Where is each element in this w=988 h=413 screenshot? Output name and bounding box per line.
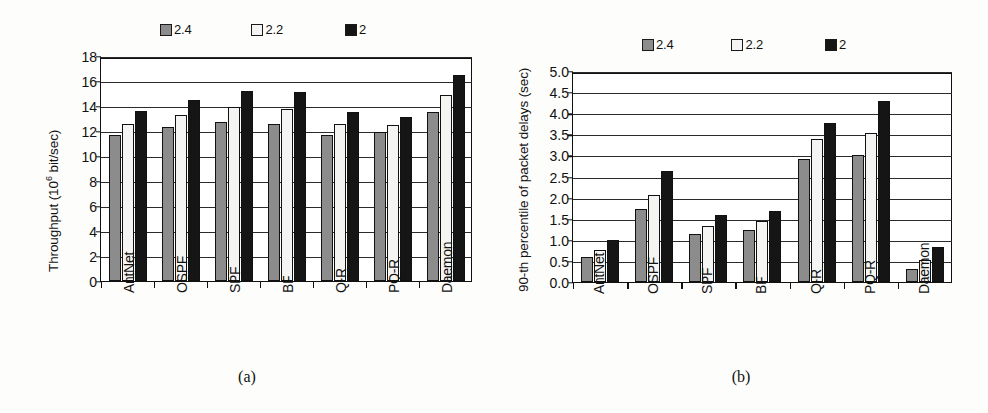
bar-group-ospf: OSPF (154, 57, 207, 281)
bar-pq-r-2-4 (374, 132, 386, 281)
y-axis-label-b: 90-th percentile of packet delays (sec) (516, 68, 531, 292)
x-axis-label-antnet: AntNet (591, 253, 607, 294)
legend-item-2-2: 2.2 (731, 37, 762, 52)
legend-item-2-4: 2.4 (160, 22, 191, 37)
y-axis-label-a: Throughput (106 bit/sec) (44, 130, 61, 272)
y-axis-tick-label: 14 (81, 99, 97, 115)
y-axis-tick-label: 10 (81, 149, 97, 165)
x-axis-label-spf: SPF (699, 268, 715, 294)
y-axis-tick-label: 5.0 (550, 64, 569, 80)
black-swatch-icon (345, 24, 357, 36)
bar-group-pq-r: PQ-R (366, 57, 419, 281)
bar-bf-2-2 (281, 109, 293, 282)
legend-label: 2 (839, 37, 846, 52)
plot-area-a: 024681012141618AntNetOSPFSPFBFQ-RPQ-RDae… (100, 57, 472, 282)
x-axis-label-q-r: Q-R (333, 268, 349, 293)
x-axis-tick-mark (260, 281, 261, 288)
bar-bf-2-2 (756, 221, 768, 282)
x-axis-tick-mark (154, 281, 155, 288)
bar-group-pq-r: PQ-R (844, 72, 898, 282)
x-axis-label-pq-r: PQ-R (862, 260, 878, 294)
x-axis-label-ospf: OSPF (645, 257, 661, 294)
legend-item-2: 2 (825, 37, 846, 52)
x-axis-tick-mark (735, 282, 736, 289)
bar-group-spf: SPF (207, 57, 260, 281)
x-axis-label-bf: BF (280, 276, 296, 293)
chart-panel-a: 2.42.22 Throughput (106 bit/sec) 0246810… (0, 0, 494, 413)
legend-b: 2.42.22 (642, 37, 846, 52)
bar-ospf-2 (188, 100, 200, 281)
bar-group-daemon: Daemon (419, 57, 472, 281)
bar-daemon-2 (932, 247, 944, 282)
bar-bf-2-4 (268, 124, 280, 282)
bar-group-q-r: Q-R (790, 72, 844, 282)
y-axis-tick-label: 1.0 (550, 233, 569, 249)
plot-area-b: 0.00.51.01.52.02.53.03.54.04.55.0AntNetO… (572, 72, 952, 283)
bar-ospf-2 (661, 171, 673, 282)
bar-q-r-2-4 (798, 159, 810, 282)
x-axis-tick-mark (681, 282, 682, 289)
x-axis-label-bf: BF (753, 277, 769, 294)
legend-a: 2.42.22 (160, 22, 366, 37)
bar-antnet-2-4 (109, 135, 121, 281)
legend-label: 2.4 (174, 22, 191, 37)
bar-q-r-2-2 (334, 124, 346, 282)
y-axis-tick-label: 3.5 (550, 127, 569, 143)
x-axis-tick-mark (207, 281, 208, 288)
x-axis-label-daemon: Daemon (439, 242, 455, 293)
x-axis-label-ospf: OSPF (174, 256, 190, 293)
x-axis-tick-mark (844, 282, 845, 289)
bar-pq-r-2 (400, 117, 412, 281)
chart-panel-b: 2.42.22 90-th percentile of packet delay… (494, 0, 988, 413)
bar-ospf-2-4 (162, 127, 174, 281)
x-axis-label-q-r: Q-R (808, 269, 824, 294)
x-axis-label-daemon: Daemon (916, 243, 932, 294)
bar-group-daemon: Daemon (898, 72, 952, 282)
y-axis-tick-label: 0.5 (550, 254, 569, 270)
bar-q-r-2-2 (811, 139, 823, 282)
bar-group-antnet: AntNet (101, 57, 154, 281)
bar-q-r-2 (824, 123, 836, 282)
bar-q-r-2-4 (321, 135, 333, 281)
y-axis-tick-label: 0.0 (550, 275, 569, 291)
bar-bf-2-4 (743, 230, 755, 282)
bar-daemon-2-4 (427, 112, 439, 281)
black-swatch-icon (825, 39, 837, 51)
x-axis-tick-mark (366, 281, 367, 288)
x-axis-label-antnet: AntNet (121, 252, 137, 293)
figure-two-bar-charts: 2.42.22 Throughput (106 bit/sec) 0246810… (0, 0, 988, 413)
gray-swatch-icon (160, 24, 172, 36)
y-axis-tick-label: 18 (81, 49, 97, 65)
x-axis-tick-mark (790, 282, 791, 289)
y-axis-tick-label: 1.5 (550, 212, 569, 228)
x-axis-tick-mark (898, 282, 899, 289)
bar-spf-2 (715, 215, 727, 282)
bar-groups: AntNetOSPFSPFBFQ-RPQ-RDaemon (573, 72, 952, 282)
legend-item-2: 2 (345, 22, 366, 37)
y-axis-tick-label: 4.0 (550, 106, 569, 122)
legend-label: 2.2 (745, 37, 762, 52)
legend-item-2-4: 2.4 (642, 37, 673, 52)
bar-bf-2 (769, 211, 781, 282)
bar-pq-r-2-2 (387, 125, 399, 281)
caption-a: (a) (0, 368, 494, 386)
y-axis-tick-label: 2.0 (550, 191, 569, 207)
legend-label: 2.2 (265, 22, 282, 37)
bar-group-bf: BF (260, 57, 313, 281)
x-axis-tick-mark (627, 282, 628, 289)
x-axis-tick-mark (573, 282, 574, 289)
bar-pq-r-2 (878, 101, 890, 282)
y-axis-tick-label: 3.0 (550, 148, 569, 164)
y-axis-tick-label: 4.5 (550, 85, 569, 101)
x-axis-tick-mark (313, 281, 314, 288)
y-axis-exponent: 6 (44, 176, 54, 181)
y-axis-tick-label: 12 (81, 124, 97, 140)
caption-b: (b) (494, 368, 988, 386)
x-axis-label-pq-r: PQ-R (386, 259, 402, 293)
bar-group-antnet: AntNet (573, 72, 627, 282)
bar-bf-2 (294, 92, 306, 281)
white-swatch-icon (731, 39, 743, 51)
y-axis-tick-label: 2.5 (550, 170, 569, 186)
white-swatch-icon (251, 24, 263, 36)
x-axis-label-spf: SPF (227, 267, 243, 293)
